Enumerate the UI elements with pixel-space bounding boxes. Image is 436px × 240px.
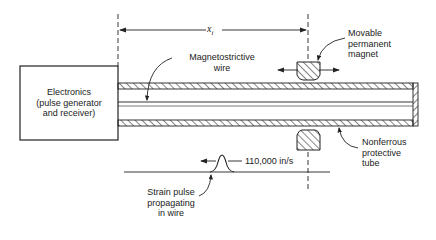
magnet-lower [297, 130, 320, 150]
strain-pulse [210, 155, 234, 172]
tube-label-line1: Nonferrous [362, 137, 407, 148]
electronics-line3: and receiver) [20, 108, 118, 119]
tube-bottom-wall [118, 120, 413, 126]
pulse-label: Strain pulse propagating in wire [138, 187, 204, 219]
magnet-upper [297, 62, 320, 80]
electronics-label: Electronics (pulse generator and receive… [20, 87, 118, 119]
wire-label-line2: wire [172, 63, 272, 74]
magnet-label-line1: Movable [348, 28, 391, 39]
tube-leader [339, 128, 358, 148]
tube-end-cap [413, 83, 418, 126]
magnet-leader [318, 38, 345, 60]
electronics-line2: (pulse generator [20, 98, 118, 109]
wire-leader [147, 58, 172, 100]
tube-label-line3: tube [362, 158, 407, 169]
wire-label: Magnetostrictive wire [172, 52, 272, 73]
wire-label-line1: Magnetostrictive [172, 52, 272, 63]
pulse-label-line2: propagating [138, 198, 204, 209]
dimension-label: xi [207, 24, 213, 39]
pulse-label-line1: Strain pulse [138, 187, 204, 198]
magnet-label-line3: magnet [348, 49, 391, 60]
tube-label: Nonferrous protective tube [362, 137, 407, 169]
magnet-label-line2: permanent [348, 39, 391, 50]
pulse-label-line3: in wire [138, 208, 204, 219]
dimension-subscript: i [211, 29, 213, 37]
speed-label: 110,000 in/s [245, 156, 293, 167]
tube-label-line2: protective [362, 148, 407, 159]
tube-top-wall [118, 83, 413, 89]
electronics-line1: Electronics [20, 87, 118, 98]
magnet-label: Movable permanent magnet [348, 28, 391, 60]
